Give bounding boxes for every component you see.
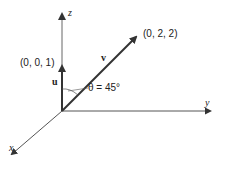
vector-v-endpoint-label: (0, 2, 2) (143, 28, 177, 39)
angle-label: θ = 45° (88, 82, 120, 93)
vector-u-label: u (52, 76, 58, 87)
vector-u-endpoint-label: (0, 0, 1) (20, 57, 54, 68)
x-axis-label: x (8, 142, 14, 153)
x-axis (12, 111, 62, 154)
vector-angle-diagram: z y x u (0, 0, 1) v (0, 2, 2) θ = 45° (0, 0, 225, 174)
z-axis-label: z (67, 7, 72, 18)
vector-v-label: v (101, 52, 106, 63)
y-axis-label: y (204, 97, 210, 108)
vector-v (62, 37, 136, 111)
